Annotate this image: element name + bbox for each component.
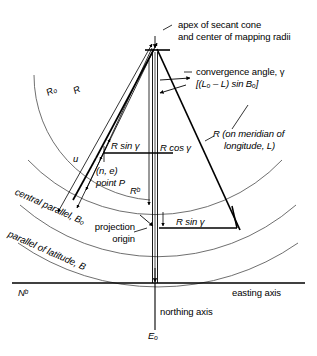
point-p-line2: point P bbox=[96, 177, 125, 189]
projection-origin-arrow bbox=[140, 215, 153, 226]
point-p-line1: (n, e) bbox=[96, 165, 125, 177]
arrow-projection-origin bbox=[140, 215, 153, 226]
label-r-sin-gamma-lower: R sin γ bbox=[176, 216, 204, 227]
label-r-sin-gamma-upper: R sin γ bbox=[111, 140, 139, 151]
convergence-angle-line1: convergence angle, γ bbox=[196, 66, 284, 78]
point-p-callout: (n, e) point P bbox=[96, 165, 125, 188]
label-easting-axis: easting axis bbox=[232, 287, 281, 298]
apex-callout: apex of secant cone and center of mappin… bbox=[178, 19, 290, 42]
conv-arrow-right bbox=[160, 78, 190, 80]
convergence-angle-callout: convergence angle, γ [(Lₒ – L) sin Bₒ] bbox=[196, 66, 284, 89]
meridian-radius-line2: longitude, L) bbox=[213, 140, 284, 152]
projection-origin-line2: origin bbox=[80, 233, 135, 245]
label-r-cos-gamma: R cos γ bbox=[160, 142, 191, 153]
label-radius-r-b: Rᵇ bbox=[130, 185, 140, 196]
label-n-b: Nᵇ bbox=[18, 287, 28, 298]
projection-diagram: apex of secant cone and center of mappin… bbox=[0, 0, 317, 356]
projection-origin-line1: projection bbox=[80, 221, 135, 233]
convergence-angle-arrows bbox=[160, 78, 190, 93]
leader-projection-origin bbox=[134, 228, 147, 232]
apex-callout-line2: and center of mapping radii bbox=[178, 31, 290, 43]
leader-meridian-label bbox=[232, 105, 248, 129]
leader-apex-callout bbox=[163, 25, 172, 30]
axes-lines bbox=[12, 268, 305, 330]
diagram-graphics bbox=[0, 0, 317, 356]
meridian-radius-line1: R (on meridian of bbox=[213, 128, 284, 140]
conv-arrow-left bbox=[160, 85, 186, 93]
label-northing-axis: northing axis bbox=[160, 306, 213, 317]
meridian-radius-callout: R (on meridian of longitude, L) bbox=[213, 128, 284, 151]
apex-callout-line1: apex of secant cone bbox=[178, 19, 290, 31]
apex-marker bbox=[145, 36, 170, 50]
bracket-lower-right-riser bbox=[232, 206, 237, 228]
label-e-o: Eₒ bbox=[148, 330, 158, 341]
convergence-angle-line2: [(Lₒ – L) sin Bₒ] bbox=[196, 78, 284, 90]
label-u: u bbox=[73, 153, 78, 164]
projection-origin-callout: projection origin bbox=[80, 221, 135, 244]
